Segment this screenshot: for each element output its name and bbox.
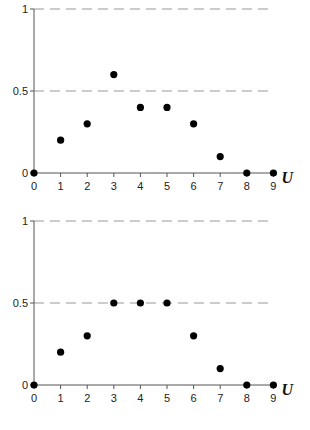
data-point (270, 169, 277, 176)
x-tick-label: 9 (270, 180, 276, 192)
x-tick-label: 7 (217, 392, 223, 404)
x-tick-label: 9 (270, 392, 276, 404)
x-tick-label: 6 (191, 392, 197, 404)
data-point (217, 153, 224, 160)
data-point (137, 104, 144, 111)
x-tick-label: 5 (164, 180, 170, 192)
data-point (57, 137, 64, 144)
x-axis-label: U (281, 381, 294, 398)
x-tick-label: 6 (191, 180, 197, 192)
x-tick-label: 8 (244, 392, 250, 404)
chart-canvas: 00.510123456789U00.510123456789U (0, 0, 310, 430)
data-point (137, 299, 144, 306)
x-tick-label: 3 (111, 392, 117, 404)
x-tick-label: 4 (137, 180, 143, 192)
y-tick-label: 0.5 (13, 297, 28, 309)
data-point (84, 332, 91, 339)
x-tick-label: 5 (164, 392, 170, 404)
x-tick-label: 0 (31, 180, 37, 192)
x-tick-label: 1 (58, 392, 64, 404)
data-point (30, 381, 37, 388)
data-point (270, 381, 277, 388)
data-point (30, 169, 37, 176)
x-tick-label: 2 (84, 180, 90, 192)
data-point (243, 381, 250, 388)
x-tick-label: 1 (58, 180, 64, 192)
x-axis-label: U (281, 169, 294, 186)
data-point (163, 104, 170, 111)
x-tick-label: 8 (244, 180, 250, 192)
data-point (217, 365, 224, 372)
data-point (84, 120, 91, 127)
data-point (110, 299, 117, 306)
y-tick-label: 0 (22, 167, 28, 179)
scatter-chart-2: 00.510123456789U (13, 215, 295, 404)
data-point (190, 120, 197, 127)
data-point (110, 71, 117, 78)
y-tick-label: 1 (22, 215, 28, 227)
y-tick-label: 0 (22, 379, 28, 391)
x-tick-label: 0 (31, 392, 37, 404)
y-tick-label: 0.5 (13, 85, 28, 97)
x-tick-label: 7 (217, 180, 223, 192)
scatter-chart-1: 00.510123456789U (13, 3, 295, 192)
data-point (163, 299, 170, 306)
data-point (57, 349, 64, 356)
data-point (243, 169, 250, 176)
data-point (190, 332, 197, 339)
x-tick-label: 2 (84, 392, 90, 404)
x-tick-label: 3 (111, 180, 117, 192)
y-tick-label: 1 (22, 3, 28, 15)
x-tick-label: 4 (137, 392, 143, 404)
